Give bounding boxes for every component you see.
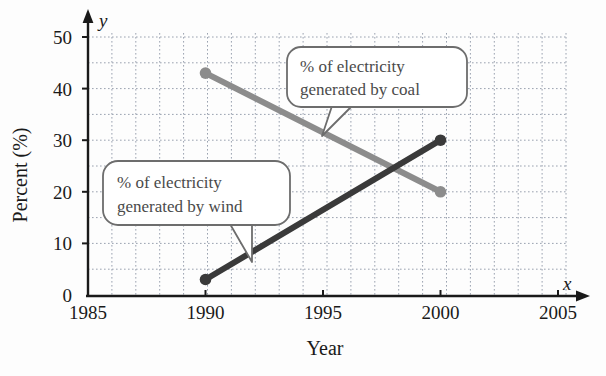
wind-callout-line1: % of electricity <box>117 173 222 192</box>
coal-point-1990 <box>200 67 212 79</box>
x-axis-title: Year <box>307 337 344 359</box>
x-axis-variable-label: x <box>562 273 572 294</box>
y-tick-label-10: 10 <box>53 233 72 254</box>
y-tick-label-30: 30 <box>53 130 72 151</box>
y-tick-label-40: 40 <box>53 79 72 100</box>
wind-point-1990 <box>200 274 212 286</box>
x-tick-label-2000: 2000 <box>422 302 460 323</box>
chart-page: y x 0 10 20 30 40 50 1985 1990 1995 2000… <box>0 0 606 376</box>
x-tick-label-1995: 1995 <box>304 302 342 323</box>
coal-callout-line1: % of electricity <box>300 57 405 76</box>
coal-callout-line2: generated by coal <box>300 80 420 99</box>
coal-point-2000 <box>435 186 447 198</box>
line-chart: y x 0 10 20 30 40 50 1985 1990 1995 2000… <box>0 0 606 376</box>
x-tick-label-1990: 1990 <box>187 302 225 323</box>
y-axis-variable-label: y <box>97 10 108 31</box>
x-tick-label-2005: 2005 <box>539 302 577 323</box>
wind-callout-line2: generated by wind <box>117 197 243 216</box>
wind-point-2000 <box>435 134 447 146</box>
y-tick-label-50: 50 <box>53 27 72 48</box>
y-axis-title: Percent (%) <box>9 128 32 223</box>
y-tick-label-20: 20 <box>53 182 72 203</box>
x-tick-label-1985: 1985 <box>69 302 107 323</box>
